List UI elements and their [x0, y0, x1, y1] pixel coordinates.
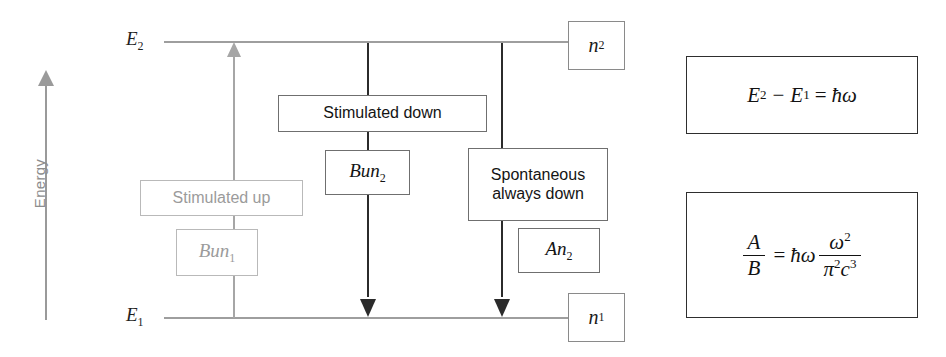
energy-level-label-upper: E2 — [126, 28, 144, 54]
formula-a-symbol: A — [743, 231, 766, 254]
formula-einstein-ab-ratio: A B = ħω ω2 π2c3 — [740, 230, 865, 279]
formula-e2-symbol: E — [747, 83, 760, 108]
formula-photon-energy: E2 − E1 = ħω — [747, 83, 857, 108]
population-upper-subscript: 2 — [599, 38, 605, 53]
energy-level-line-upper — [164, 41, 568, 43]
stimulated-down-rate: Bun2 — [349, 160, 386, 186]
stimulated-up-title: Stimulated up — [173, 189, 271, 208]
spontaneous-down-rate: An2 — [545, 238, 572, 264]
population-lower-subscript: 1 — [599, 310, 605, 325]
population-box-lower: n1 — [568, 293, 625, 342]
stimulated-down-rate-box: Bun2 — [325, 150, 410, 195]
stimulated-up-rate-box: Bun1 — [176, 229, 258, 276]
energy-level-label-upper-subscript: 2 — [138, 39, 144, 53]
stimulated-down-title: Stimulated down — [323, 104, 441, 123]
spontaneous-down-arrowhead-icon — [494, 299, 510, 317]
formula-hbar-omega: ħω — [832, 83, 857, 108]
formula-ratio-hbar-omega: ħω — [790, 243, 815, 268]
formula-ratio-numerator: ω2 — [824, 230, 855, 254]
population-upper-symbol: n — [589, 34, 599, 57]
energy-level-diagram: Energy E2 E1 n2 n1 Stimulated up Bun1 St… — [0, 0, 946, 357]
stimulated-down-title-box: Stimulated down — [278, 95, 487, 132]
population-lower-symbol: n — [589, 306, 599, 329]
formula-box-photon-energy: E2 − E1 = ħω — [686, 56, 918, 134]
formula-e1-subscript: 1 — [803, 87, 810, 103]
formula-ab-fraction: A B — [743, 231, 766, 278]
stimulated-up-arrowhead-icon — [227, 42, 241, 57]
population-box-upper: n2 — [568, 21, 625, 70]
stimulated-up-rate: Bun1 — [199, 240, 236, 266]
spontaneous-down-title-line2: always down — [492, 185, 584, 202]
formula-minus-operator: − — [772, 83, 784, 108]
formula-ratio-denominator: π2c3 — [819, 255, 862, 280]
formula-e2-subscript: 2 — [760, 87, 767, 103]
energy-level-label-lower-subscript: 1 — [138, 315, 144, 329]
formula-equals-operator: = — [815, 83, 827, 108]
formula-ratio-equals-operator: = — [773, 243, 785, 268]
energy-level-label-lower: E1 — [126, 304, 144, 330]
formula-box-einstein-ab-ratio: A B = ħω ω2 π2c3 — [686, 192, 918, 318]
spontaneous-down-title: Spontaneousalways down — [491, 166, 585, 204]
spontaneous-down-title-line1: Spontaneous — [491, 166, 585, 183]
energy-axis-label: Energy — [31, 129, 48, 239]
spontaneous-down-title-box: Spontaneousalways down — [468, 148, 608, 221]
formula-e1-symbol: E — [790, 83, 803, 108]
spontaneous-down-rate-box: An2 — [518, 228, 600, 273]
energy-level-label-lower-symbol: E — [126, 304, 138, 325]
stimulated-down-arrowhead-icon — [360, 299, 376, 317]
formula-b-symbol: B — [743, 255, 766, 279]
energy-level-line-lower — [164, 317, 568, 319]
energy-level-label-upper-symbol: E — [126, 28, 138, 49]
formula-omega-over-pi-c-fraction: ω2 π2c3 — [819, 230, 862, 279]
stimulated-up-title-box: Stimulated up — [140, 180, 303, 216]
